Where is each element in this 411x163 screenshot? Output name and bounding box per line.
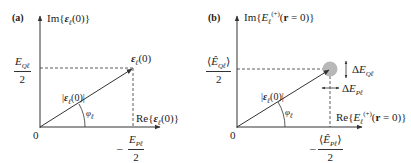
panel-b-x-axis-label: Re{Eℓ(+)(r = 0)} [336, 111, 407, 126]
panel-a-x-axis-label: Re{εℓ(0)} [136, 113, 179, 127]
panel-b-x-tick-fraction: ⟨ÊPℓ⟩ 2 [318, 134, 343, 163]
panel-b-x-tick-denominator: 2 [328, 150, 334, 163]
panel-b-delta-q-label: ΔEQℓ [352, 64, 374, 78]
panel-b-x-tick-numerator: ⟨ÊPℓ⟩ [318, 134, 343, 150]
panel-a-x-tick-minus: – [117, 143, 123, 154]
panel-a-magnitude-label: |εℓ(0)| [62, 93, 85, 106]
panel-a-angle-label: φℓ [86, 109, 94, 121]
panel-a-x-tick-fraction: EPℓ 2 [128, 134, 144, 163]
panel-a-angle-arc [79, 104, 85, 127]
panel-b-uncertainty-disk [323, 62, 338, 77]
panel-a-vector-label: εℓ(0) [131, 53, 151, 67]
panel-b-label: (b) [208, 13, 220, 23]
panel-b-delta-p-label: ΔEPℓ [342, 83, 363, 97]
panel-b-magnitude-label: |εℓ(0)| [261, 92, 284, 105]
panel-b-angle-label: φℓ [285, 108, 293, 120]
panel-a-origin-label: 0 [33, 130, 39, 141]
panel-b-y-axis-label: Im{Eℓ(+)(r = 0)} [244, 11, 315, 26]
panel-a-y-tick-denominator: 2 [20, 72, 26, 85]
panel-a-label: (a) [12, 13, 24, 23]
panel-b-origin-label: 0 [230, 130, 236, 141]
panel-b-y-tick-numerator: ⟨ÊQℓ⟩ [206, 56, 231, 72]
panel-b-y-tick-fraction: ⟨ÊQℓ⟩ 2 [206, 56, 231, 85]
panel-b-angle-arc [278, 102, 285, 127]
panel-a-x-tick-denominator: 2 [133, 150, 139, 163]
panel-a-y-axis-label: Im{εℓ(0)} [47, 13, 90, 27]
panel-b-y-tick-denominator: 2 [216, 72, 222, 85]
panel-b-x-tick-minus: – [310, 143, 316, 154]
panel-a-y-tick-fraction: EQℓ 2 [14, 56, 31, 85]
panel-a-x-tick-numerator: EPℓ [128, 134, 144, 150]
panel-a-y-tick-numerator: EQℓ [14, 56, 31, 72]
